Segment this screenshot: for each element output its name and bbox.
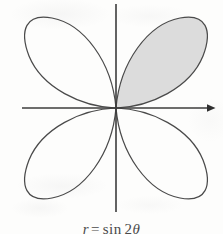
polar-plot [0,0,223,234]
polar-rose-figure: r=sin2θ [0,0,223,234]
shaded-petal-region [116,17,207,108]
petal-fill-quadrant-1 [116,17,207,108]
caption-equals: = [89,221,102,234]
caption-coefficient: 2 [122,221,133,234]
caption-angle: θ [132,221,140,234]
petal-outline-quadrant-3 [25,108,116,199]
caption-function: sin [102,221,122,234]
petal-outline-quadrant-2 [25,17,116,108]
figure-caption: r=sin2θ [0,221,223,234]
petal-outline-quadrant-4 [116,108,207,199]
